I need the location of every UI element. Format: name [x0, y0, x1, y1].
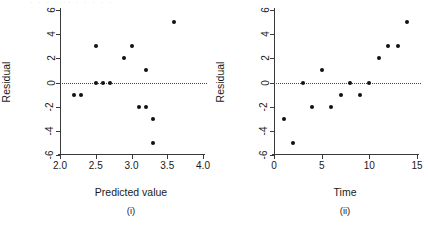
x-tick-i [132, 155, 133, 159]
data-point [79, 93, 83, 97]
plot-area-i: 6420-2-4-62.02.53.03.54.0 [60, 10, 203, 155]
y-tick-ii [270, 131, 274, 132]
data-point [137, 105, 141, 109]
panel-predicted-value: Residual 6420-2-4-62.02.53.03.54.0 Predi… [0, 0, 214, 233]
y-tick-label-i: 6 [47, 7, 57, 13]
x-tick-ii [417, 155, 418, 159]
y-tick-label-ii: -4 [260, 126, 270, 135]
panel-tag-ii: (ii) [340, 205, 351, 216]
data-point [396, 44, 400, 48]
data-point [367, 81, 371, 85]
y-tick-label-i: -2 [46, 102, 56, 111]
x-tick-i [203, 155, 204, 159]
y-tick-label-ii: 0 [261, 80, 271, 86]
panel-tag-i: (i) [127, 205, 135, 216]
y-axis-title-i: Residual [0, 62, 12, 103]
x-tick-ii [369, 155, 370, 159]
y-tick-i [56, 107, 60, 108]
data-point [144, 105, 148, 109]
data-point [94, 81, 98, 85]
x-tick-i [60, 155, 61, 159]
x-axis-title-ii: Time [334, 186, 357, 198]
data-point [72, 93, 76, 97]
x-tick-ii [274, 155, 275, 159]
data-point [172, 20, 176, 24]
data-point [339, 93, 343, 97]
y-tick-label-ii: 6 [261, 7, 271, 13]
data-point [101, 81, 105, 85]
y-tick-label-ii: 4 [261, 31, 271, 37]
y-tick-label-i: 0 [47, 80, 57, 86]
panel-time: Residual 6420-2-4-6051015 Time (ii) [214, 0, 428, 233]
data-point [130, 44, 134, 48]
y-tick-ii [270, 107, 274, 108]
x-tick-ii [322, 155, 323, 159]
y-tick-i [56, 131, 60, 132]
x-tick-label-ii: 15 [411, 161, 422, 171]
x-axis-title-i: Predicted value [95, 186, 167, 198]
x-tick-label-i: 3.0 [125, 161, 139, 171]
x-tick-i [96, 155, 97, 159]
data-point [122, 56, 126, 60]
x-tick-label-i: 2.5 [89, 161, 103, 171]
data-point [329, 105, 333, 109]
x-tick-label-i: 4.0 [196, 161, 210, 171]
data-point [151, 117, 155, 121]
data-point [358, 93, 362, 97]
data-point [94, 44, 98, 48]
y-tick-label-i: -4 [46, 126, 56, 135]
x-tick-label-ii: 0 [271, 161, 277, 171]
data-point [377, 56, 381, 60]
data-point [348, 81, 352, 85]
x-tick-label-ii: 5 [319, 161, 325, 171]
y-tick-label-i: -6 [46, 151, 56, 160]
x-tick-label-i: 2.0 [53, 161, 67, 171]
residual-plots-figure: · · · · ·· · · · · · Residual 6420-2-4-6… [0, 0, 428, 233]
zero-reference-line-i [60, 83, 207, 84]
data-point [405, 20, 409, 24]
plot-area-ii: 6420-2-4-6051015 [274, 10, 417, 155]
data-point [386, 44, 390, 48]
x-axis-line-ii [272, 154, 419, 155]
x-tick-label-i: 3.5 [160, 161, 174, 171]
x-tick-i [167, 155, 168, 159]
data-point [151, 141, 155, 145]
data-point [301, 81, 305, 85]
y-tick-label-i: 4 [47, 31, 57, 37]
data-point [310, 105, 314, 109]
data-point [108, 81, 112, 85]
data-point [282, 117, 286, 121]
data-point [291, 141, 295, 145]
x-tick-label-ii: 10 [364, 161, 375, 171]
y-axis-title-ii: Residual [214, 62, 226, 103]
y-tick-label-ii: 2 [261, 56, 271, 62]
y-tick-label-ii: -6 [260, 151, 270, 160]
data-point [320, 68, 324, 72]
y-tick-label-i: 2 [47, 56, 57, 62]
data-point [144, 68, 148, 72]
y-tick-label-ii: -2 [260, 102, 270, 111]
